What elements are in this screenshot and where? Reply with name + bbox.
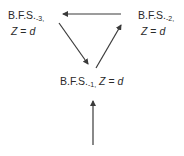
node-bfs2-val: d bbox=[159, 25, 165, 37]
node-bfs1: B.F.S.-1, Z = d bbox=[60, 75, 123, 91]
node-bfs2-sub: -2, bbox=[166, 15, 174, 22]
node-bfs3-base: B.F.S. bbox=[8, 9, 36, 21]
node-bfs3-eq: = bbox=[17, 25, 29, 37]
node-bfs1-base: B.F.S. bbox=[60, 75, 88, 87]
node-bfs3-val: d bbox=[29, 25, 35, 37]
node-bfs1-sub: -1, bbox=[88, 81, 96, 88]
node-bfs3: B.F.S.-3, Z = d bbox=[8, 9, 44, 38]
arrow-bfs3-to-bfs1 bbox=[59, 23, 88, 64]
node-bfs2-base: B.F.S. bbox=[138, 9, 166, 21]
node-bfs2-eq: = bbox=[147, 25, 159, 37]
node-bfs1-eq: = bbox=[106, 75, 118, 87]
node-bfs3-sub: -3, bbox=[36, 15, 44, 22]
node-bfs2: B.F.S.-2, Z = d bbox=[138, 9, 174, 38]
node-bfs1-val: d bbox=[118, 75, 124, 87]
arrow-bfs1-to-bfs2 bbox=[96, 25, 121, 68]
